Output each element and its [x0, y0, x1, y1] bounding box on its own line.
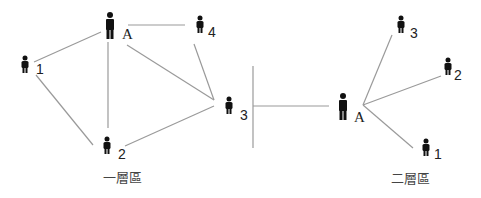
person-icon-left-1	[22, 56, 29, 74]
node-label-left-3: 3	[240, 108, 248, 122]
node-label-right-2: 2	[454, 68, 462, 82]
edge-A-3	[127, 45, 214, 100]
person-icon-left-3	[226, 97, 233, 115]
node-label-left-2: 2	[118, 147, 126, 161]
caption-second-layer: 二層區	[391, 172, 430, 186]
diagram-lines	[0, 0, 481, 198]
edge-2-3	[125, 106, 214, 146]
person-icon-right-3	[398, 16, 405, 34]
person-icon-left-2	[104, 137, 111, 155]
edge-4-3	[194, 44, 214, 100]
person-icon-right-2	[445, 58, 452, 76]
person-icon-left-4	[197, 16, 204, 34]
edge-A-2-right	[363, 76, 441, 105]
node-label-right-3: 3	[410, 26, 418, 40]
node-label-right-1: 1	[434, 147, 442, 161]
node-label-left-4: 4	[208, 25, 216, 39]
edge-1-2	[36, 75, 93, 145]
node-label-left-A: A	[122, 27, 133, 41]
edge-A-3-right	[363, 35, 392, 105]
node-label-left-1: 1	[36, 62, 44, 76]
ego-network-diagram: A 1 2 3 4 一層區 A 1 2 3 二層區	[0, 0, 481, 198]
person-icon-right-A	[339, 93, 347, 120]
node-label-right-A: A	[354, 110, 365, 124]
caption-first-layer: 一層區	[103, 171, 142, 185]
edge-A-1-right	[363, 105, 413, 148]
person-icon-right-1	[423, 139, 430, 157]
person-icon-left-A	[106, 12, 114, 39]
edge-A-1	[34, 32, 101, 62]
